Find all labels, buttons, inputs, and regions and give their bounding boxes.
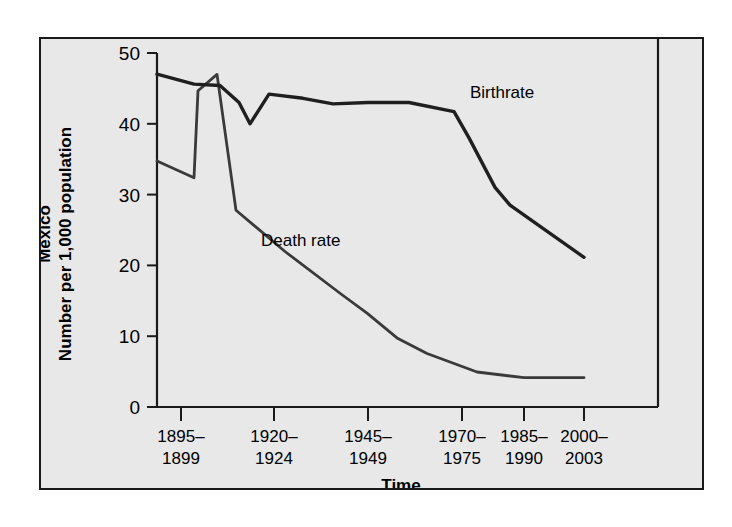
y-tick-label-40: 40	[119, 114, 140, 135]
y-axis-title-country: Mexico	[41, 205, 54, 263]
y-tick-label-20: 20	[119, 255, 140, 276]
x-tick-label-2-line2: 1924	[255, 449, 293, 468]
y-tick-label-10: 10	[119, 326, 140, 347]
x-tick-label-1-line2: 1899	[162, 449, 200, 468]
chart-outer-frame: 0 10 20 30 40 50 1895– 1899 1920–	[39, 37, 704, 490]
x-tick-label-1-line1: 1895–	[157, 427, 205, 446]
series-annotation-death-rate: Death rate	[261, 231, 340, 250]
plot-background	[41, 39, 702, 488]
x-tick-label-5-line2: 1990	[505, 449, 543, 468]
x-tick-label-6-line2: 2003	[565, 449, 603, 468]
x-tick-label-3-line2: 1949	[349, 449, 387, 468]
x-axis-title: Time	[381, 476, 420, 488]
x-tick-label-3-line1: 1945–	[344, 427, 392, 446]
y-tick-label-0: 0	[129, 397, 140, 418]
x-tick-label-2-line1: 1920–	[250, 427, 298, 446]
y-axis-title-main: Number per 1,000 population	[56, 127, 75, 361]
series-annotation-birthrate: Birthrate	[470, 83, 534, 102]
x-tick-label-6-line1: 2000–	[560, 427, 608, 446]
figure-canvas: 0 10 20 30 40 50 1895– 1899 1920–	[0, 0, 732, 527]
x-tick-label-4-line1: 1970–	[438, 427, 486, 446]
x-tick-label-4-line2: 1975	[443, 449, 481, 468]
line-chart: 0 10 20 30 40 50 1895– 1899 1920–	[41, 39, 702, 488]
y-tick-label-30: 30	[119, 185, 140, 206]
x-tick-label-5-line1: 1985–	[500, 427, 548, 446]
y-tick-label-50: 50	[119, 43, 140, 64]
